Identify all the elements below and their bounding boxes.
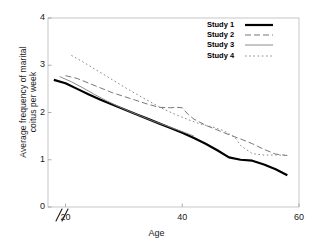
series-layer [54,55,287,175]
legend-item-2[interactable]: Study 2 [207,30,274,40]
legend-swatch-4 [244,52,274,60]
series-line-2 [66,76,288,156]
legend-label-4: Study 4 [207,51,240,61]
y-tick-label: 4 [36,12,45,22]
x-tick-label: 60 [289,212,309,222]
chart-container: 01234 204060 Average frequency of marita… [0,0,313,246]
y-axis-label-line-1: Average frequency of marital [18,27,28,177]
y-tick-label: 0 [36,201,45,211]
y-axis-label: Average frequency of marital coitus per … [18,27,38,177]
series-line-3 [60,77,194,137]
legend-item-4[interactable]: Study 4 [207,51,274,61]
legend-swatch-3 [244,41,274,49]
legend-label-2: Study 2 [207,30,240,40]
y-axis-label-line-2: coitus per week [28,27,38,177]
x-tick-label: 40 [172,212,192,222]
legend-swatch-1 [244,21,274,29]
series-line-4 [71,55,287,155]
legend-swatch-2 [244,31,274,39]
x-tick-label: 20 [56,212,76,222]
legend-item-3[interactable]: Study 3 [207,40,274,50]
legend-label-1: Study 1 [207,20,240,30]
x-axis-label: Age [0,228,313,238]
legend-label-3: Study 3 [207,40,240,50]
legend: Study 1Study 2Study 3Study 4 [207,20,274,61]
legend-item-1[interactable]: Study 1 [207,20,274,30]
